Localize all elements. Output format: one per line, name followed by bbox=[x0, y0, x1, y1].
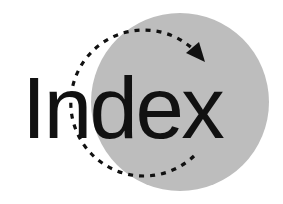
logo-wordmark: Index bbox=[22, 58, 222, 158]
index-logo: Index bbox=[0, 0, 283, 204]
